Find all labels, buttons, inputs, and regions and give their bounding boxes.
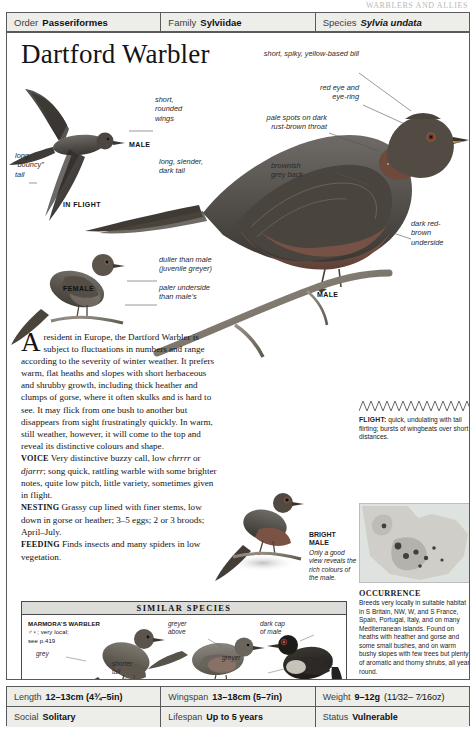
page-title: Dartford Warbler bbox=[21, 39, 210, 70]
stat-wingspan: Wingspan 13–18cm (5–7in) bbox=[161, 687, 315, 706]
drop-cap: A bbox=[21, 331, 44, 353]
nesting-paragraph: NESTING Grassy cup lined with finer stem… bbox=[21, 501, 217, 538]
stat-lifespan: Lifespan Up to 5 years bbox=[161, 707, 315, 727]
caption-male-perched: MALE bbox=[317, 291, 338, 298]
flight-heading: FLIGHT: bbox=[359, 416, 386, 423]
flight-path-zigzag-icon bbox=[359, 398, 470, 414]
anno-duller-than-male: duller than male (juvenile greyer) bbox=[159, 255, 212, 274]
voice-heading: VOICE bbox=[21, 454, 49, 463]
wingspan-label: Wingspan bbox=[168, 692, 208, 702]
anno-dark-red-brown-underside: dark red- brown underside bbox=[411, 219, 443, 247]
simanno-dark-cap: dark cap of male bbox=[260, 620, 285, 636]
anno-pale-spots-on-throat: pale spots on dark rust-brown throat bbox=[203, 113, 327, 132]
simanno-white-throat: white throat bbox=[316, 654, 333, 670]
measurements-row-2: Social Solitary Lifespan Up to 5 years S… bbox=[7, 707, 469, 727]
lifespan-label: Lifespan bbox=[168, 712, 202, 722]
seen-in-uk-box: Seen in the UK JFMAMJJASOND bbox=[359, 679, 470, 680]
feeding-heading: FEEDING bbox=[21, 540, 60, 549]
weight-value: 9–12g bbox=[355, 692, 381, 702]
marmoras-name: MARMORA’S WARBLER bbox=[28, 620, 100, 627]
taxonomy-family: Family Sylviidae bbox=[161, 13, 315, 31]
similar-species-heading: SIMILAR SPECIES bbox=[22, 602, 346, 615]
intro-text: resident in Europe, the Dartford Warbler… bbox=[21, 332, 214, 451]
anno-brownish-grey-back: brownish grey back bbox=[271, 161, 303, 180]
bright-male-text: Only a good view reveals the rich colour… bbox=[309, 549, 357, 582]
lifespan-value: Up to 5 years bbox=[206, 712, 263, 722]
stat-weight: Weight 9–12g (11⁄32– 7⁄16oz) bbox=[316, 687, 469, 706]
measurements-table: Length 12–13cm (4¾–5in) Wingspan 13–18cm… bbox=[6, 686, 470, 726]
occurrence-panel: OCCURRENCE Breeds very locally in suitab… bbox=[359, 589, 470, 680]
stat-status: Status Vulnerable bbox=[316, 707, 469, 727]
anno-paler-underside: paler underside than male’s bbox=[159, 283, 210, 302]
species-plate: Dartford Warbler bbox=[6, 32, 470, 680]
occurrence-text: Breeds very locally in suitable habitat … bbox=[359, 599, 470, 676]
measurements-row-1: Length 12–13cm (4¾–5in) Wingspan 13–18cm… bbox=[7, 687, 469, 707]
anno-long-bouncy-tail: long, “bouncy” tail bbox=[15, 151, 44, 179]
bird-bright-male bbox=[215, 493, 304, 581]
length-value: 12–13cm (4¾–5in) bbox=[46, 692, 123, 702]
voice-text-a: Very distinctive buzzy call, low bbox=[49, 453, 168, 463]
stat-social: Social Solitary bbox=[7, 707, 161, 727]
taxonomy-bar: Order Passeriformes Family Sylviidae Spe… bbox=[6, 12, 470, 32]
length-label: Length bbox=[14, 692, 42, 702]
similar-name-marmoras: MARMORA’S WARBLER ♂♀; very local; see p.… bbox=[28, 620, 100, 646]
simanno-shorter-tail: shorter tail bbox=[112, 660, 132, 676]
caption-male-flight: MALE bbox=[129, 141, 150, 148]
voice-text-c: ; song quick, rattling warble with some … bbox=[21, 466, 217, 500]
running-head: WARBLERS AND ALLIES bbox=[366, 1, 468, 10]
order-label: Order bbox=[14, 17, 38, 28]
bright-male-heading: BRIGHT MALE bbox=[309, 531, 357, 547]
bright-male-caption: BRIGHT MALE Only a good view reveals the… bbox=[309, 531, 357, 582]
wingspan-value: 13–18cm (5–7in) bbox=[212, 692, 282, 702]
map-graphic bbox=[360, 504, 470, 583]
intro-paragraph: A resident in Europe, the Dartford Warbl… bbox=[21, 331, 217, 452]
status-label: Status bbox=[323, 712, 349, 722]
anno-short-spiky-bill: short, spiky, yellow-based bill bbox=[245, 49, 359, 58]
weight-label: Weight bbox=[323, 692, 351, 702]
flight-panel: FLIGHT: quick, undulating with tail flir… bbox=[359, 398, 470, 442]
similar-species-panel: SIMILAR SPECIES bbox=[21, 601, 347, 680]
anno-long-slender-dark-tail: long, slender, dark tail bbox=[159, 157, 203, 176]
field-guide-page: WARBLERS AND ALLIES Order Passeriformes … bbox=[0, 0, 476, 730]
marmoras-sub: ♂♀; very local; see p.419 bbox=[28, 629, 69, 644]
taxonomy-order: Order Passeriformes bbox=[7, 13, 161, 31]
similar-bird-subalpine bbox=[148, 638, 265, 681]
voice-call-2: djarrr bbox=[21, 466, 43, 476]
anno-short-rounded-wings: short, rounded wings bbox=[155, 95, 182, 123]
anno-red-eye-and-eye-ring: red eye and eye-ring bbox=[253, 83, 359, 102]
simanno-grey: grey bbox=[36, 650, 49, 658]
social-label: Social bbox=[14, 712, 39, 722]
taxonomy-species: Species Sylvia undata bbox=[316, 13, 469, 31]
nesting-heading: NESTING bbox=[21, 503, 59, 512]
family-value: Sylviidae bbox=[200, 17, 241, 28]
feeding-paragraph: FEEDING Finds insects and many spiders i… bbox=[21, 538, 217, 563]
species-value: Sylvia undata bbox=[360, 17, 421, 28]
caption-in-flight: IN FLIGHT bbox=[63, 201, 101, 208]
social-value: Solitary bbox=[43, 712, 76, 722]
stat-length: Length 12–13cm (4¾–5in) bbox=[7, 687, 161, 706]
voice-text-b: or bbox=[191, 453, 201, 463]
caption-female: FEMALE bbox=[63, 285, 94, 292]
order-value: Passeriformes bbox=[42, 17, 107, 28]
species-description: A resident in Europe, the Dartford Warbl… bbox=[21, 331, 217, 563]
distribution-map bbox=[359, 503, 470, 583]
status-value: Vulnerable bbox=[352, 712, 398, 722]
weight-value-imperial: (11⁄32– 7⁄16oz) bbox=[384, 692, 444, 702]
simanno-greyer: greyer bbox=[222, 654, 240, 662]
voice-call-1: chrrrr bbox=[168, 453, 191, 463]
species-label: Species bbox=[323, 17, 357, 28]
occurrence-heading: OCCURRENCE bbox=[359, 589, 470, 598]
family-label: Family bbox=[168, 17, 196, 28]
simanno-greyer-above: greyer above bbox=[168, 620, 186, 636]
flight-description: FLIGHT: quick, undulating with tail flir… bbox=[359, 416, 470, 442]
voice-paragraph: VOICE Very distinctive buzzy call, low c… bbox=[21, 452, 217, 501]
